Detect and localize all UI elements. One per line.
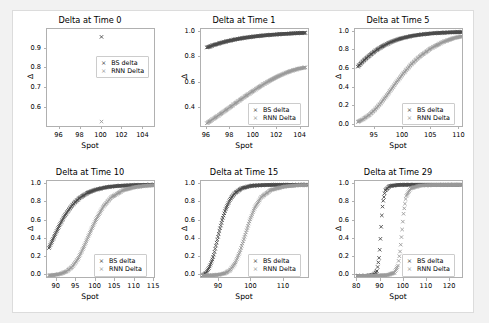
y-tick-mark [198, 256, 201, 257]
legend[interactable]: ×BS delta×RNN Delta [402, 254, 455, 277]
x-tick-label: 110 [452, 131, 465, 139]
y-tick-mark [198, 274, 201, 275]
legend-marker-x-icon: × [252, 114, 259, 122]
subplot-4: Delta at Time 100.00.20.40.60.81.0909510… [13, 163, 167, 315]
y-tick-mark [44, 87, 47, 88]
x-tick-mark [80, 127, 81, 130]
legend-label: BS delta [263, 106, 290, 114]
legend-item-bs-delta: ×BS delta [100, 59, 144, 67]
legend[interactable]: ×BS delta×RNN Delta [94, 254, 147, 277]
y-tick-label: 1.0 [13, 179, 41, 187]
subplot-title: Delta at Time 1 [167, 15, 321, 25]
legend-item-rnn-delta: ×RNN Delta [406, 265, 450, 273]
series-bs-delta [100, 35, 103, 38]
x-tick-mark [75, 278, 76, 281]
y-tick-label: 1.0 [321, 27, 349, 35]
x-tick-mark [402, 127, 403, 130]
y-tick-mark [352, 256, 355, 257]
x-tick-mark [283, 278, 284, 281]
legend-marker-x-icon: × [252, 257, 259, 265]
x-tick-mark [426, 278, 427, 281]
x-tick-label: 90 [375, 282, 383, 290]
x-tick-mark [56, 278, 57, 281]
x-tick-mark [206, 127, 207, 130]
y-tick-mark [198, 107, 201, 108]
y-tick-label: 0.4 [167, 103, 195, 111]
y-tick-label: 0.0 [167, 270, 195, 278]
y-tick-mark [44, 238, 47, 239]
y-tick-mark [44, 220, 47, 221]
subplot-1: Delta at Time 00.60.70.80.99698100102104… [13, 11, 167, 163]
series-bs-delta [47, 183, 155, 250]
y-axis-label: Δ [26, 67, 35, 87]
legend-item-rnn-delta: ×RNN Delta [98, 265, 142, 273]
series-bs-delta [356, 30, 463, 68]
x-tick-label: 115 [147, 282, 160, 290]
y-tick-mark [198, 238, 201, 239]
legend-marker-x-icon: × [406, 257, 413, 265]
legend-item-bs-delta: ×BS delta [252, 257, 296, 265]
y-tick-label: 0.8 [13, 197, 41, 205]
x-tick-label: 95 [370, 131, 378, 139]
legend-item-rnn-delta: ×RNN Delta [100, 67, 144, 75]
x-tick-label: 90 [214, 282, 222, 290]
y-tick-mark [352, 201, 355, 202]
y-tick-mark [198, 56, 201, 57]
x-tick-label: 100 [94, 131, 107, 139]
legend[interactable]: ×BS delta×RNN Delta [248, 103, 301, 126]
legend-marker-x-icon: × [406, 114, 413, 122]
y-tick-mark [44, 256, 47, 257]
x-tick-mark [229, 127, 230, 130]
legend-label: RNN Delta [263, 114, 296, 122]
x-tick-label: 95 [71, 282, 79, 290]
legend-marker-x-icon: × [252, 106, 259, 114]
subplot-2: Delta at Time 10.40.60.81.09698100102104… [167, 11, 321, 163]
subplot-title: Delta at Time 15 [167, 167, 321, 177]
x-tick-mark [458, 127, 459, 130]
subplot-grid: Delta at Time 00.60.70.80.99698100102104… [13, 11, 473, 312]
x-tick-mark [300, 127, 301, 130]
x-tick-label: 110 [127, 282, 140, 290]
legend-item-bs-delta: ×BS delta [406, 257, 450, 265]
legend-label: BS delta [417, 106, 444, 114]
x-axis-label: Spot [321, 141, 475, 150]
x-axis-label: Spot [13, 292, 167, 301]
subplot-title: Delta at Time 5 [321, 15, 475, 25]
x-tick-mark [59, 127, 60, 130]
y-axis-label: Δ [180, 67, 189, 87]
y-tick-mark [352, 238, 355, 239]
x-tick-label: 102 [270, 131, 283, 139]
legend-marker-x-icon: × [100, 59, 107, 67]
x-tick-mark [121, 127, 122, 130]
y-tick-label: 0.6 [13, 103, 41, 111]
x-tick-mark [374, 127, 375, 130]
x-axis-label: Spot [167, 141, 321, 150]
x-tick-mark [449, 278, 450, 281]
legend-label: RNN Delta [111, 67, 144, 75]
x-tick-label: 105 [108, 282, 121, 290]
legend[interactable]: ×BS delta×RNN Delta [248, 254, 301, 277]
x-tick-mark [114, 278, 115, 281]
legend[interactable]: ×BS delta×RNN Delta [96, 56, 149, 79]
y-tick-mark [44, 274, 47, 275]
legend-item-rnn-delta: ×RNN Delta [252, 265, 296, 273]
legend-item-bs-delta: ×BS delta [406, 106, 450, 114]
subplot-title: Delta at Time 10 [13, 167, 167, 177]
y-tick-label: 0.8 [167, 197, 195, 205]
x-tick-label: 105 [424, 131, 437, 139]
y-tick-mark [44, 107, 47, 108]
y-tick-label: 1.0 [167, 179, 195, 187]
y-tick-mark [352, 183, 355, 184]
page-background: Delta at Time 00.60.70.80.99698100102104… [0, 0, 489, 323]
y-tick-mark [352, 274, 355, 275]
x-tick-label: 90 [52, 282, 60, 290]
x-tick-label: 100 [244, 282, 257, 290]
legend-label: BS delta [263, 257, 290, 265]
x-tick-mark [356, 278, 357, 281]
x-tick-label: 100 [246, 131, 259, 139]
y-tick-label: 0.0 [321, 270, 349, 278]
y-tick-mark [352, 220, 355, 221]
x-tick-label: 98 [225, 131, 233, 139]
legend[interactable]: ×BS delta×RNN Delta [402, 103, 455, 126]
y-tick-mark [352, 105, 355, 106]
